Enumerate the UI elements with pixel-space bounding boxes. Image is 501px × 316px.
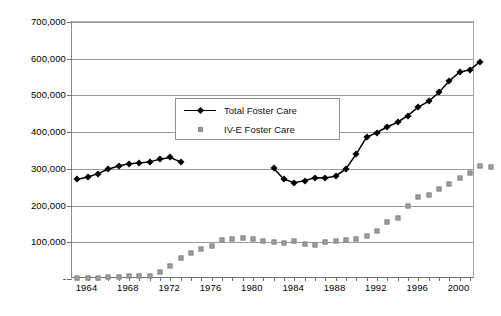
data-point-ive-foster-care (436, 187, 441, 192)
y-axis-tick-label: 400,000 (31, 126, 66, 137)
x-axis-tick-label: 1996 (406, 282, 428, 293)
y-axis-tick-label: 100,000 (31, 236, 66, 247)
y-axis-tick-label: 300,000 (31, 162, 66, 173)
data-point-ive-foster-care (426, 192, 431, 197)
data-point-ive-foster-care (281, 241, 286, 246)
data-point-ive-foster-care (209, 243, 214, 248)
x-axis-tick-label: 2000 (448, 282, 470, 293)
y-axis-tick-label: 600,000 (31, 52, 66, 63)
legend-key-line-diamond-marker (176, 101, 224, 119)
data-point-ive-foster-care (199, 246, 204, 251)
y-axis-tick-label: 700,000 (31, 16, 66, 27)
data-point-ive-foster-care (395, 215, 400, 220)
data-point-ive-foster-care (261, 238, 266, 243)
data-point-ive-foster-care (230, 236, 235, 241)
data-point-ive-foster-care (385, 220, 390, 225)
data-point-ive-foster-care (106, 275, 111, 280)
data-point-ive-foster-care (354, 236, 359, 241)
data-point-ive-foster-care (250, 237, 255, 242)
data-point-total-foster-care (477, 58, 484, 65)
data-point-ive-foster-care (323, 240, 328, 245)
chart-legend: Total Foster Care IV-E Foster Care (175, 98, 340, 140)
data-point-ive-foster-care (219, 237, 224, 242)
data-point-ive-foster-care (75, 276, 80, 281)
x-axis-tick-label: 1984 (282, 282, 304, 293)
data-point-ive-foster-care (312, 242, 317, 247)
x-axis-tick-label: 1964 (76, 282, 98, 293)
data-point-ive-foster-care (271, 239, 276, 244)
data-point-ive-foster-care (240, 235, 245, 240)
x-axis-tick-label: 1972 (158, 282, 180, 293)
data-point-ive-foster-care (416, 195, 421, 200)
foster-care-line-chart: -100,000200,000300,000400,000500,000600,… (0, 0, 501, 316)
data-point-ive-foster-care (343, 237, 348, 242)
data-point-ive-foster-care (457, 176, 462, 181)
data-point-ive-foster-care (478, 164, 483, 169)
data-point-ive-foster-care (333, 238, 338, 243)
data-point-ive-foster-care (447, 181, 452, 186)
data-point-ive-foster-care (374, 228, 379, 233)
x-axis-tick-label: 1968 (117, 282, 139, 293)
y-axis-tick-label: - (63, 273, 66, 284)
data-point-ive-foster-care (126, 274, 131, 279)
plot-area: Total Foster Care IV-E Foster Care (71, 21, 474, 278)
legend-item-total-foster-care: Total Foster Care (176, 101, 339, 119)
data-point-ive-foster-care (467, 170, 472, 175)
data-point-ive-foster-care (137, 274, 142, 279)
data-point-ive-foster-care (188, 250, 193, 255)
data-point-ive-foster-care (178, 256, 183, 261)
y-axis-tick-label: 200,000 (31, 199, 66, 210)
legend-item-ive-foster-care: IV-E Foster Care (176, 120, 339, 138)
data-point-ive-foster-care (85, 275, 90, 280)
legend-label-total-foster-care: Total Foster Care (224, 105, 297, 116)
data-point-ive-foster-care (364, 233, 369, 238)
data-point-ive-foster-care (302, 241, 307, 246)
data-point-ive-foster-care (488, 165, 493, 170)
x-axis-tick-label: 1976 (200, 282, 222, 293)
data-point-ive-foster-care (157, 270, 162, 275)
y-axis-tick-label: 500,000 (31, 89, 66, 100)
y-axis-tick (67, 279, 72, 280)
data-point-ive-foster-care (116, 274, 121, 279)
data-point-ive-foster-care (405, 203, 410, 208)
x-axis-tick-label: 1980 (241, 282, 263, 293)
legend-key-square-marker (176, 120, 224, 138)
x-axis-tick-label: 1988 (324, 282, 346, 293)
data-point-ive-foster-care (168, 263, 173, 268)
x-axis-tick-label: 1992 (365, 282, 387, 293)
data-point-ive-foster-care (147, 273, 152, 278)
data-point-ive-foster-care (95, 275, 100, 280)
legend-label-ive-foster-care: IV-E Foster Care (224, 124, 295, 135)
data-point-ive-foster-care (292, 238, 297, 243)
